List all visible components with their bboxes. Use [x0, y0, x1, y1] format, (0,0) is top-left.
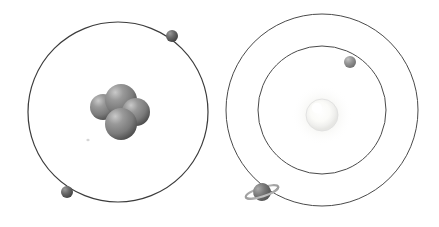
inner-planet: [344, 56, 356, 68]
nucleon-front-sphere: [105, 108, 137, 140]
ringed-planet: [243, 178, 281, 206]
atom-solar-system-figure: [0, 0, 439, 227]
solar-system-model-panel: [226, 14, 418, 206]
sun-disc: [306, 99, 338, 131]
electron-upper-right: [166, 30, 178, 42]
nucleus-speck: [86, 139, 89, 141]
figure-canvas: [0, 0, 439, 227]
electron-lower-left: [61, 186, 73, 198]
sun: [292, 85, 353, 146]
sun-specular-highlight: [312, 103, 322, 113]
planet-body: [251, 181, 274, 204]
atom-model-panel: [28, 22, 208, 202]
nucleus: [86, 84, 150, 141]
